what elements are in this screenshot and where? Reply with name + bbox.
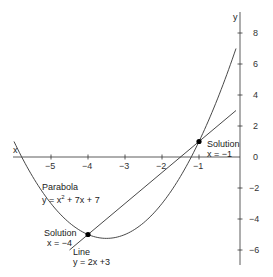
x-tick-label: −3 — [119, 161, 129, 171]
x-tick-label: −4 — [82, 161, 92, 171]
y-tick-label: 8 — [253, 28, 258, 38]
y-tick-label: −4 — [249, 214, 259, 224]
x-tick-label: −2 — [156, 161, 166, 171]
x-tick-label: −1 — [193, 161, 203, 171]
x-tick-label: −5 — [45, 161, 55, 171]
y-tick-label: 0 — [253, 152, 258, 162]
curves — [14, 49, 236, 251]
line-name-label: Line — [73, 247, 90, 257]
y-tick-label: −6 — [249, 245, 259, 255]
y-tick-label: 4 — [253, 90, 258, 100]
y-tick-label: −2 — [249, 183, 259, 193]
solution-right-value: x = −1 — [207, 149, 232, 159]
solution-right-title: Solution — [207, 139, 240, 149]
solution-point — [85, 232, 90, 237]
solution-left-title: Solution — [44, 228, 77, 238]
parabola-curve — [14, 49, 236, 239]
solution-left-value: x = −4 — [47, 238, 72, 248]
parabola-equation-label: y = x2 + 7x + 7 — [42, 192, 100, 205]
y-tick-label: 2 — [253, 121, 258, 131]
y-axis-label: y — [233, 12, 238, 22]
line-curve — [70, 111, 237, 251]
parabola-name-label: Parabola — [42, 182, 78, 192]
x-axis-label: x — [13, 145, 18, 155]
line-equation-label: y = 2x +3 — [73, 257, 110, 267]
y-tick-label: 6 — [253, 59, 258, 69]
solution-point — [196, 139, 201, 144]
